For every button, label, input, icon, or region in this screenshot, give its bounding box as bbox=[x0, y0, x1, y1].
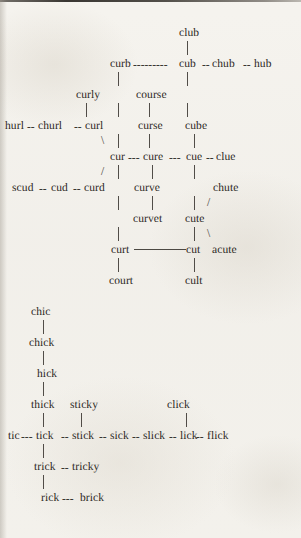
gutter-shadow bbox=[0, 0, 7, 538]
vertical-connector bbox=[186, 413, 187, 427]
word-node: curt bbox=[111, 244, 129, 257]
word-node: cur bbox=[110, 151, 125, 164]
word-node: acute bbox=[212, 244, 237, 257]
word-node: chick bbox=[29, 337, 54, 350]
word-node: hub bbox=[254, 58, 272, 71]
diagonal-connector: \ bbox=[207, 227, 210, 239]
vertical-connector bbox=[187, 72, 188, 86]
vertical-connector bbox=[194, 196, 195, 210]
dash-connector: --- bbox=[128, 151, 140, 164]
dash-connector: -- bbox=[73, 182, 81, 195]
vertical-connector bbox=[194, 258, 195, 272]
vertical-connector bbox=[118, 196, 119, 210]
diagonal-connector: / bbox=[207, 196, 210, 208]
vertical-connector bbox=[43, 413, 44, 427]
dash-connector: -- bbox=[99, 430, 107, 443]
word-node: curd bbox=[84, 182, 105, 195]
word-node: tic bbox=[8, 430, 20, 443]
word-node: stick bbox=[72, 430, 94, 443]
vertical-connector bbox=[86, 103, 87, 117]
word-node: scud bbox=[12, 182, 33, 195]
word-node: cube bbox=[185, 120, 207, 133]
word-node: clue bbox=[216, 151, 236, 164]
vertical-connector bbox=[118, 227, 119, 241]
vertical-connector bbox=[149, 103, 150, 117]
word-node: curve bbox=[134, 182, 160, 195]
vertical-connector bbox=[149, 134, 150, 148]
word-node: curl bbox=[85, 120, 103, 133]
vertical-connector bbox=[194, 134, 195, 148]
word-node: chute bbox=[213, 182, 238, 195]
solid-rule-connector bbox=[134, 249, 186, 250]
vertical-connector bbox=[43, 475, 44, 489]
vertical-connector bbox=[187, 103, 188, 117]
vertical-connector bbox=[81, 413, 82, 427]
dash-connector: -- bbox=[132, 430, 140, 443]
word-node: hurl bbox=[5, 120, 24, 133]
word-node: cub bbox=[179, 58, 196, 71]
dash-connector: -- bbox=[243, 58, 251, 71]
vertical-connector bbox=[194, 227, 195, 241]
word-node: sick bbox=[110, 430, 129, 443]
dash-connector: -- bbox=[169, 430, 177, 443]
dash-connector: -- bbox=[27, 120, 35, 133]
word-node: curse bbox=[138, 120, 163, 133]
word-node: curvet bbox=[133, 213, 162, 226]
word-node: cure bbox=[143, 151, 163, 164]
dash-connector: -- bbox=[61, 461, 69, 474]
word-node: club bbox=[179, 27, 199, 40]
word-node: churl bbox=[38, 120, 62, 133]
dash-connector: -- bbox=[202, 58, 210, 71]
word-node: trick bbox=[34, 461, 56, 474]
dash-connector: -- bbox=[61, 430, 69, 443]
word-node: tick bbox=[36, 430, 54, 443]
word-node: tricky bbox=[72, 461, 99, 474]
vertical-connector bbox=[43, 444, 44, 458]
dash-connector: -- bbox=[74, 120, 82, 133]
diagram-page: clubcurbcubchubhubcurlycoursehurlchurlcu… bbox=[0, 0, 301, 538]
vertical-connector bbox=[152, 196, 153, 210]
word-node: brick bbox=[80, 492, 104, 505]
word-node: rick bbox=[41, 492, 59, 505]
word-node: cue bbox=[186, 151, 202, 164]
vertical-connector bbox=[43, 320, 44, 334]
vertical-connector bbox=[118, 165, 119, 179]
dash-connector: --- bbox=[62, 492, 74, 505]
word-node: cut bbox=[186, 244, 200, 257]
word-node: cud bbox=[51, 182, 68, 195]
word-node: click bbox=[167, 399, 190, 412]
dash-connector: -- bbox=[206, 151, 214, 164]
dash-connector: --- bbox=[169, 151, 181, 164]
word-node: slick bbox=[143, 430, 165, 443]
word-node: lick bbox=[180, 430, 198, 443]
word-node: curb bbox=[110, 58, 131, 71]
word-node: thick bbox=[31, 399, 55, 412]
top-rule bbox=[0, 0, 301, 2]
dash-connector: -- bbox=[39, 182, 47, 195]
dash-connector: --- bbox=[21, 430, 33, 443]
word-node: court bbox=[109, 275, 133, 288]
vertical-connector bbox=[194, 165, 195, 179]
vertical-connector bbox=[118, 134, 119, 148]
word-node: flick bbox=[207, 430, 229, 443]
diagonal-connector: \ bbox=[101, 134, 104, 146]
vertical-connector bbox=[118, 103, 119, 117]
vertical-connector bbox=[118, 258, 119, 272]
word-node: chic bbox=[31, 306, 51, 319]
vertical-connector bbox=[118, 72, 119, 86]
word-node: cult bbox=[185, 275, 203, 288]
word-node: course bbox=[136, 89, 167, 102]
word-node: hick bbox=[37, 368, 57, 381]
word-node: curly bbox=[76, 89, 100, 102]
word-node: cute bbox=[185, 213, 205, 226]
vertical-connector bbox=[43, 382, 44, 396]
word-node: sticky bbox=[70, 399, 98, 412]
paper-texture bbox=[0, 0, 301, 538]
dash-connector: -- bbox=[196, 430, 204, 443]
diagonal-connector: / bbox=[101, 165, 104, 177]
word-node: chub bbox=[212, 58, 235, 71]
vertical-connector bbox=[187, 41, 188, 55]
vertical-connector bbox=[43, 351, 44, 365]
dash-connector: --------- bbox=[133, 58, 167, 71]
vertical-connector bbox=[152, 165, 153, 179]
